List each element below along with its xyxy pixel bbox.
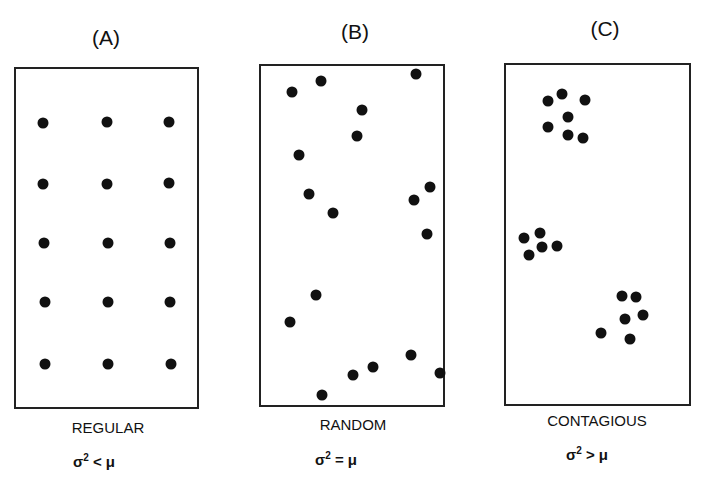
individual-dot [287, 87, 298, 98]
individual-dot [165, 297, 176, 308]
individual-dot [425, 182, 436, 193]
panel-b-caption: RANDOM [263, 416, 443, 433]
individual-dot [164, 117, 175, 128]
individual-dot [578, 133, 589, 144]
individual-dot [165, 238, 176, 249]
individual-dot [435, 368, 446, 379]
panel-a-caption: REGULAR [18, 419, 198, 436]
individual-dot [103, 297, 114, 308]
panel-a-formula: σ2 < μ [4, 452, 184, 470]
individual-dot [543, 122, 554, 133]
individual-dot [285, 317, 296, 328]
panel-c-caption: CONTAGIOUS [507, 412, 687, 429]
individual-dot [537, 242, 548, 253]
individual-dot [563, 130, 574, 141]
individual-dot [535, 228, 546, 239]
panel-b-title: (B) [295, 20, 415, 44]
individual-dot [617, 291, 628, 302]
individual-dot [557, 89, 568, 100]
relation: > μ [582, 446, 608, 463]
individual-dot [524, 250, 535, 261]
individual-dot [316, 76, 327, 87]
panel-c-formula: σ2 > μ [497, 445, 677, 463]
variance-symbol: σ [73, 453, 83, 470]
relation: < μ [89, 453, 115, 470]
individual-dot [631, 292, 642, 303]
individual-dot [328, 208, 339, 219]
variance-symbol: σ [315, 451, 325, 468]
panel-a-title: (A) [46, 26, 166, 50]
individual-dot [580, 95, 591, 106]
individual-dot [552, 241, 563, 252]
individual-dot [638, 310, 649, 321]
individual-dot [563, 112, 574, 123]
individual-dot [317, 390, 328, 401]
individual-dot [294, 150, 305, 161]
panel-b-box [259, 64, 445, 407]
variance-symbol: σ [566, 446, 576, 463]
individual-dot [102, 117, 113, 128]
individual-dot [304, 189, 315, 200]
panel-c-box [504, 63, 691, 406]
individual-dot [625, 334, 636, 345]
individual-dot [40, 359, 51, 370]
panel-c-title: (C) [545, 17, 665, 41]
individual-dot [519, 233, 530, 244]
individual-dot [368, 362, 379, 373]
individual-dot [103, 238, 114, 249]
individual-dot [38, 118, 49, 129]
individual-dot [348, 370, 359, 381]
relation: = μ [331, 451, 357, 468]
individual-dot [39, 238, 50, 249]
individual-dot [103, 359, 114, 370]
individual-dot [352, 131, 363, 142]
individual-dot [38, 179, 49, 190]
individual-dot [357, 105, 368, 116]
individual-dot [40, 297, 51, 308]
individual-dot [596, 328, 607, 339]
individual-dot [406, 350, 417, 361]
individual-dot [422, 229, 433, 240]
individual-dot [543, 96, 554, 107]
individual-dot [311, 290, 322, 301]
individual-dot [166, 359, 177, 370]
individual-dot [411, 69, 422, 80]
individual-dot [102, 179, 113, 190]
individual-dot [409, 195, 420, 206]
individual-dot [164, 178, 175, 189]
individual-dot [620, 314, 631, 325]
panel-b-formula: σ2 = μ [246, 450, 426, 468]
